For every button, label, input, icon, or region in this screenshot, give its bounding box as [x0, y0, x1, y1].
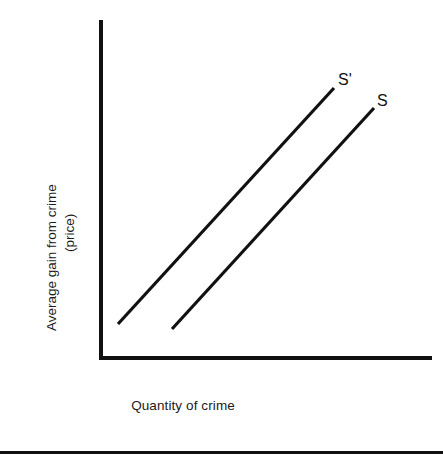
y-axis-title-line2: (price) — [62, 214, 77, 252]
curve-line-s — [172, 108, 374, 329]
curve-line-s-prime — [118, 88, 334, 324]
figure-container: Average gain from crime (price) Quantity… — [0, 0, 443, 461]
y-axis-title-line1: Average gain from crime — [44, 184, 59, 331]
curve-label-s-prime: S' — [338, 71, 352, 89]
curve-label-s: S — [377, 92, 388, 110]
x-axis-title: Quantity of crime — [0, 398, 366, 413]
bottom-divider-rule — [0, 451, 443, 454]
y-axis-title-group: Average gain from crime (price) — [0, 0, 96, 461]
